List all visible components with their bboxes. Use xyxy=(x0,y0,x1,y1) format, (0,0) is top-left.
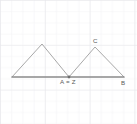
left-triangle-sides xyxy=(12,44,69,77)
vertex-label-a-z: A = Z xyxy=(60,78,76,85)
geometry-figure-canvas: A = Z C B xyxy=(0,0,137,124)
vertex-label-c: C xyxy=(93,37,98,44)
geometry-drawing xyxy=(0,0,137,124)
right-triangle-sides xyxy=(69,47,124,77)
vertex-label-b: B xyxy=(121,79,125,86)
